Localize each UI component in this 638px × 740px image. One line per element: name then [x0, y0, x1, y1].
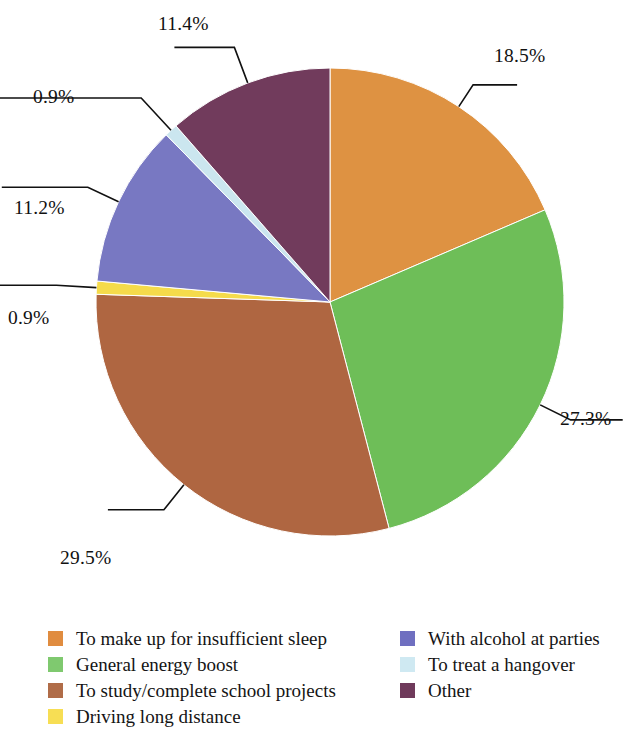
- callout-11-4: 11.4%: [158, 14, 209, 34]
- callout-18-5: 18.5%: [494, 46, 545, 66]
- legend-item[interactable]: Other: [400, 678, 632, 703]
- legend-item[interactable]: Driving long distance: [48, 704, 388, 729]
- callout-27-3: 27.3%: [560, 409, 611, 429]
- callout-29-5: 29.5%: [60, 548, 111, 568]
- legend-column-left: To make up for insufficient sleepGeneral…: [48, 626, 388, 730]
- legend-label: To study/complete school projects: [76, 681, 336, 700]
- legend-column-right: With alcohol at partiesTo treat a hangov…: [400, 626, 632, 704]
- legend-label: To treat a hangover: [428, 655, 575, 674]
- legend-item[interactable]: General energy boost: [48, 652, 388, 677]
- legend-swatch-left-2: [48, 683, 63, 698]
- callout-0-9-driving: 0.9%: [8, 308, 49, 328]
- legend-swatch-right-1: [400, 657, 415, 672]
- leader-line: [0, 98, 171, 130]
- callout-0-9-hangover: 0.9%: [33, 87, 74, 107]
- legend-label: General energy boost: [76, 655, 238, 674]
- chart-canvas: 18.5%27.3%29.5%0.9%11.2%0.9%11.4% To mak…: [0, 0, 638, 740]
- legend-swatch-left-3: [48, 709, 63, 724]
- legend-label: Driving long distance: [76, 707, 241, 726]
- legend-swatch-left-1: [48, 657, 63, 672]
- legend-swatch-right-0: [400, 631, 415, 646]
- pie-chart: [0, 0, 638, 610]
- legend: To make up for insufficient sleepGeneral…: [48, 626, 626, 736]
- leader-line: [459, 85, 517, 107]
- legend-item[interactable]: To treat a hangover: [400, 652, 632, 677]
- legend-swatch-left-0: [48, 631, 63, 646]
- legend-label: To make up for insufficient sleep: [76, 629, 327, 648]
- legend-item[interactable]: To make up for insufficient sleep: [48, 626, 388, 651]
- legend-swatch-right-2: [400, 683, 415, 698]
- legend-label: With alcohol at parties: [428, 629, 600, 648]
- pie-slice-group: [96, 68, 564, 536]
- legend-item[interactable]: To study/complete school projects: [48, 678, 388, 703]
- legend-item[interactable]: With alcohol at parties: [400, 626, 632, 651]
- leader-line: [108, 485, 184, 510]
- leader-line: [0, 285, 96, 287]
- legend-label: Other: [428, 681, 471, 700]
- leader-line: [174, 47, 247, 83]
- callout-11-2: 11.2%: [14, 198, 65, 218]
